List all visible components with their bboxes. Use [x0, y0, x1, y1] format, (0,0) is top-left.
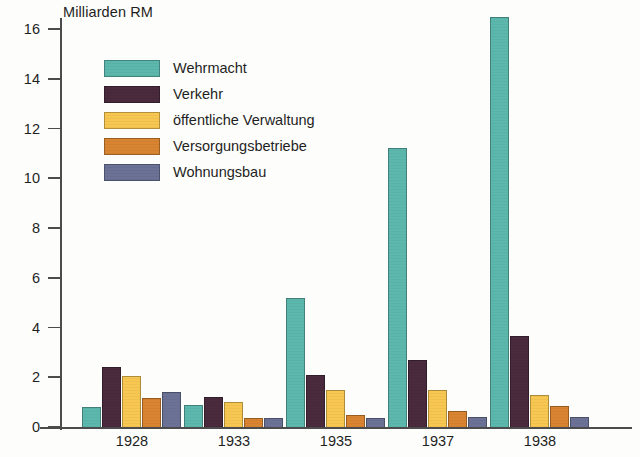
- bar-group: [82, 367, 182, 427]
- legend-label: Wehrmacht: [173, 60, 247, 76]
- bar: [184, 405, 203, 427]
- y-axis-tick-label: 10: [0, 170, 40, 186]
- y-axis-tick-label: 6: [0, 270, 40, 286]
- bar: [326, 390, 345, 427]
- bar-chart: Milliarden RM 0246810121416 192819331935…: [0, 0, 640, 457]
- y-axis-line: [60, 18, 62, 430]
- y-axis-tick: [48, 78, 60, 80]
- bar: [408, 360, 427, 427]
- bar: [102, 367, 121, 427]
- bar-group: [286, 298, 386, 427]
- legend-swatch: [104, 164, 160, 181]
- bar: [530, 395, 549, 427]
- bar-group: [184, 397, 284, 427]
- bar: [264, 418, 283, 427]
- legend-item[interactable]: Wohnungsbau: [104, 159, 315, 185]
- y-axis-tick-label: 14: [0, 71, 40, 87]
- bar: [224, 402, 243, 427]
- legend-swatch: [104, 138, 160, 155]
- y-axis-tick: [48, 426, 60, 428]
- y-axis-tick-label: 2: [0, 369, 40, 385]
- legend-label: öffentliche Verwaltung: [173, 112, 315, 128]
- bar: [428, 390, 447, 427]
- bar: [490, 17, 509, 427]
- bar: [468, 417, 487, 427]
- bar: [306, 375, 325, 427]
- y-axis-tick: [48, 28, 60, 30]
- bar: [550, 406, 569, 427]
- bar: [142, 398, 161, 427]
- y-axis-tick: [48, 128, 60, 130]
- y-axis-tick: [48, 177, 60, 179]
- legend-item[interactable]: Wehrmacht: [104, 55, 315, 81]
- legend-item[interactable]: Verkehr: [104, 81, 315, 107]
- y-axis-tick-label: 4: [0, 320, 40, 336]
- y-axis-tick-label: 12: [0, 121, 40, 137]
- bar: [286, 298, 305, 427]
- legend-swatch: [104, 86, 160, 103]
- chart-legend: WehrmachtVerkehröffentliche VerwaltungVe…: [104, 55, 315, 185]
- y-axis-tick: [48, 327, 60, 329]
- legend-swatch: [104, 112, 160, 129]
- bar: [510, 336, 529, 427]
- legend-item[interactable]: öffentliche Verwaltung: [104, 107, 315, 133]
- legend-item[interactable]: Versorgungsbetriebe: [104, 133, 315, 159]
- legend-swatch: [104, 60, 160, 77]
- y-axis-tick: [48, 376, 60, 378]
- bar: [346, 415, 365, 427]
- legend-label: Wohnungsbau: [173, 164, 266, 180]
- legend-label: Verkehr: [173, 86, 223, 102]
- legend-label: Versorgungsbetriebe: [173, 138, 307, 154]
- bar: [82, 407, 101, 427]
- bar-group: [490, 17, 590, 427]
- y-axis-tick-label: 8: [0, 220, 40, 236]
- y-axis-tick-label: 16: [0, 21, 40, 37]
- x-axis-label: 1935: [291, 433, 381, 449]
- bar: [366, 418, 385, 427]
- bar: [448, 411, 467, 427]
- x-axis-label: 1933: [189, 433, 279, 449]
- x-axis-line: [40, 427, 632, 429]
- x-axis-label: 1937: [393, 433, 483, 449]
- y-axis-tick: [48, 277, 60, 279]
- bar: [244, 418, 263, 427]
- bar: [204, 397, 223, 427]
- y-axis-tick-label: 0: [0, 419, 40, 435]
- x-axis-label: 1928: [87, 433, 177, 449]
- bar: [122, 376, 141, 427]
- y-axis-tick: [48, 227, 60, 229]
- x-axis-label: 1938: [495, 433, 585, 449]
- y-axis-title: Milliarden RM: [63, 4, 153, 20]
- bar: [162, 392, 181, 427]
- bar: [570, 417, 589, 427]
- bar-group: [388, 148, 488, 427]
- bar: [388, 148, 407, 427]
